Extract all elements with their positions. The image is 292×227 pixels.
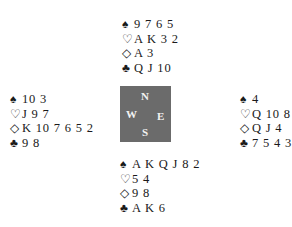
compass-north-label: N	[141, 90, 149, 102]
east-hearts-row: ♡Q 10 8 6	[240, 107, 292, 122]
diamond-icon: ◇	[122, 46, 134, 61]
north-hearts-row: ♡A K 3 2	[122, 32, 179, 47]
spade-icon: ♠	[10, 92, 22, 107]
heart-icon: ♡	[122, 32, 134, 47]
east-hearts: Q 10 8 6	[252, 107, 292, 122]
south-diamonds-row: ◇9 8	[120, 186, 200, 201]
south-hearts-row: ♡5 4	[120, 172, 200, 187]
north-diamonds-row: ◇A 3	[122, 46, 179, 61]
east-spades: 4	[252, 92, 259, 107]
south-spades-row: ♠A K Q J 8 2	[120, 157, 200, 172]
west-clubs-row: ♣9 8	[10, 136, 94, 151]
south-hand: ♠A K Q J 8 2 ♡5 4 ◇9 8 ♣A K 6	[120, 157, 200, 215]
south-clubs-row: ♣A K 6	[120, 201, 200, 216]
spade-icon: ♠	[122, 17, 134, 32]
north-clubs-row: ♣Q J 10	[122, 61, 179, 76]
south-spades: A K Q J 8 2	[132, 157, 200, 172]
west-hearts: J 9 7	[22, 107, 50, 122]
east-clubs-row: ♣7 5 4 3 2	[240, 136, 292, 151]
heart-icon: ♡	[120, 172, 132, 187]
north-hand: ♠9 7 6 5 ♡A K 3 2 ◇A 3 ♣Q J 10	[122, 17, 179, 75]
north-hearts: A K 3 2	[134, 32, 179, 47]
club-icon: ♣	[122, 61, 134, 76]
diamond-icon: ◇	[240, 121, 252, 136]
south-clubs: A K 6	[132, 201, 166, 216]
west-diamonds: K 10 7 6 5 2	[22, 121, 94, 136]
heart-icon: ♡	[10, 107, 22, 122]
west-clubs: 9 8	[22, 136, 40, 151]
compass-south-label: S	[142, 126, 148, 138]
east-diamonds: Q J 4	[252, 121, 282, 136]
west-spades-row: ♠10 3	[10, 92, 94, 107]
club-icon: ♣	[10, 136, 22, 151]
north-clubs: Q J 10	[134, 61, 171, 76]
east-spades-row: ♠4	[240, 92, 292, 107]
club-icon: ♣	[240, 136, 252, 151]
west-hand: ♠10 3 ♡J 9 7 ◇K 10 7 6 5 2 ♣9 8	[10, 92, 94, 150]
west-spades: 10 3	[22, 92, 47, 107]
club-icon: ♣	[120, 201, 132, 216]
west-diamonds-row: ◇K 10 7 6 5 2	[10, 121, 94, 136]
compass-west-label: W	[126, 108, 137, 120]
east-diamonds-row: ◇Q J 4	[240, 121, 292, 136]
north-diamonds: A 3	[134, 46, 154, 61]
west-hearts-row: ♡J 9 7	[10, 107, 94, 122]
compass-east-label: E	[157, 110, 164, 122]
north-spades-row: ♠9 7 6 5	[122, 17, 179, 32]
spade-icon: ♠	[120, 157, 132, 172]
compass-box: N W E S	[120, 86, 171, 142]
diamond-icon: ◇	[10, 121, 22, 136]
spade-icon: ♠	[240, 92, 252, 107]
heart-icon: ♡	[240, 107, 252, 122]
south-hearts: 5 4	[132, 172, 150, 187]
south-diamonds: 9 8	[132, 186, 150, 201]
north-spades: 9 7 6 5	[134, 17, 174, 32]
east-clubs: 7 5 4 3 2	[252, 136, 292, 151]
diamond-icon: ◇	[120, 186, 132, 201]
east-hand: ♠4 ♡Q 10 8 6 ◇Q J 4 ♣7 5 4 3 2	[240, 92, 292, 150]
